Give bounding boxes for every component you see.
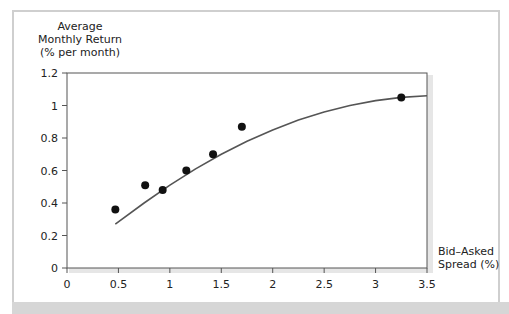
y-tick-label: 0 <box>51 262 58 275</box>
y-tick-label: 0.4 <box>41 197 59 210</box>
data-point <box>209 150 217 158</box>
data-point <box>397 93 405 101</box>
data-point <box>159 186 167 194</box>
y-tick-label: 0.8 <box>41 132 59 145</box>
x-tick-label: 0.5 <box>110 278 128 291</box>
y-tick-label: 1 <box>51 100 58 113</box>
data-point <box>182 167 190 175</box>
y-tick-label: 0.2 <box>41 230 59 243</box>
x-tick-label: 3 <box>372 278 379 291</box>
plot-shadow-right <box>427 75 433 270</box>
x-tick-label: 3.5 <box>418 278 436 291</box>
x-tick-label: 1 <box>166 278 173 291</box>
scatter-plot: 00.20.40.60.811.200.511.522.533.5 <box>0 0 509 314</box>
plot-shadow-bottom <box>69 268 433 273</box>
x-tick-label: 1.5 <box>213 278 231 291</box>
y-tick-label: 1.2 <box>41 67 59 80</box>
plot-area <box>67 73 427 268</box>
x-tick-label: 0 <box>64 278 71 291</box>
data-point <box>238 123 246 131</box>
data-point <box>141 181 149 189</box>
data-point <box>111 206 119 214</box>
x-tick-label: 2.5 <box>315 278 333 291</box>
x-tick-label: 2 <box>269 278 276 291</box>
y-tick-label: 0.6 <box>41 165 59 178</box>
